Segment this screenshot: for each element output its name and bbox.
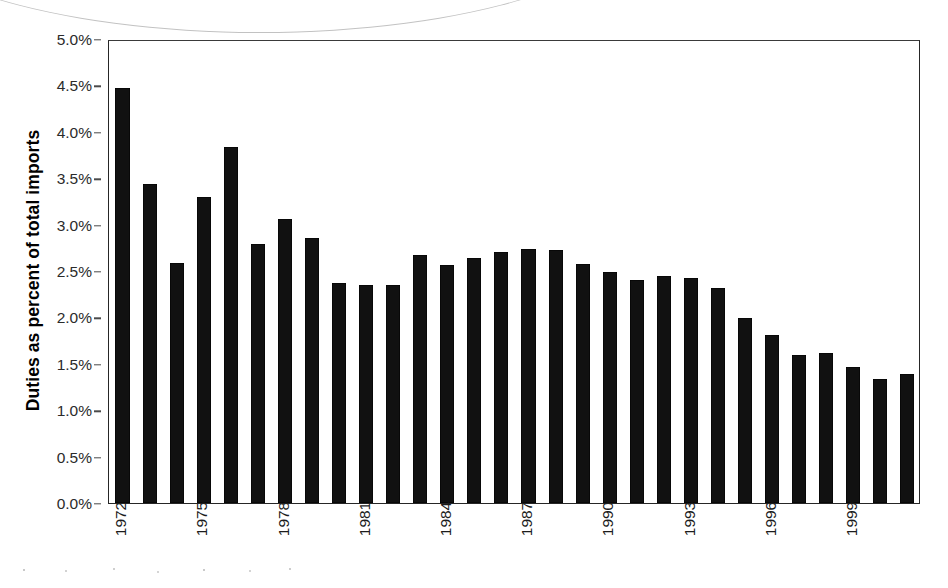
y-tick-label: 1.5% <box>57 356 92 374</box>
y-tick-label: 1.0% <box>57 402 92 420</box>
bar <box>440 265 454 503</box>
x-tick-label: 1978 <box>254 510 314 528</box>
x-tick-label: 1993 <box>660 510 720 528</box>
y-tick-label: 2.0% <box>57 309 92 327</box>
bar <box>115 88 129 503</box>
x-tick-label-text: 1990 <box>600 502 618 536</box>
y-tick-label: 4.5% <box>57 77 92 95</box>
y-tick-mark <box>94 410 101 411</box>
y-tick-mark <box>94 457 101 458</box>
y-tick-label: 0.5% <box>57 449 92 467</box>
bar <box>900 374 914 503</box>
bar <box>630 280 644 503</box>
y-tick-mark <box>94 503 101 504</box>
x-axis-tick-labels: 1972197519781981198419871990199319961999 <box>108 506 920 588</box>
bar <box>197 197 211 503</box>
x-tick-label: 1987 <box>498 510 558 528</box>
bar <box>738 318 752 503</box>
x-tick-label-text: 1993 <box>681 502 699 536</box>
y-axis-tick-labels: 0.0%0.5%1.0%1.5%2.0%2.5%3.0%3.5%4.0%4.5%… <box>0 0 108 588</box>
y-tick-label: 0.0% <box>57 495 92 513</box>
bar <box>684 278 698 504</box>
bar <box>332 283 346 503</box>
y-tick-label: 4.0% <box>57 124 92 142</box>
x-tick-label-text: 1972 <box>113 502 131 536</box>
bar <box>765 335 779 503</box>
y-tick-label: 5.0% <box>57 31 92 49</box>
y-tick-label: 3.5% <box>57 170 92 188</box>
bar <box>494 252 508 503</box>
x-tick-label-text: 1999 <box>843 502 861 536</box>
bar <box>278 219 292 503</box>
y-tick-mark <box>94 39 101 40</box>
x-tick-label-text: 1978 <box>275 502 293 536</box>
x-tick-label: 1996 <box>741 510 801 528</box>
x-tick-label: 1999 <box>822 510 882 528</box>
x-tick-label: 1972 <box>92 510 152 528</box>
x-tick-label-text: 1975 <box>194 502 212 536</box>
bar <box>603 272 617 503</box>
bar <box>819 353 833 503</box>
x-tick-label: 1975 <box>173 510 233 528</box>
bar <box>305 238 319 503</box>
bar <box>413 255 427 503</box>
bar-series <box>109 41 919 503</box>
bar <box>467 258 481 503</box>
y-tick-mark <box>94 318 101 319</box>
x-tick-label-text: 1987 <box>519 502 537 536</box>
bar <box>386 285 400 503</box>
bar <box>251 244 265 503</box>
y-tick-mark <box>94 271 101 272</box>
y-tick-mark <box>94 364 101 365</box>
x-tick-label: 1990 <box>579 510 639 528</box>
x-tick-label-text: 1996 <box>762 502 780 536</box>
bar <box>170 263 184 503</box>
chart-figure: Duties as percent of total imports 0.0%0… <box>0 0 948 588</box>
bar <box>846 367 860 503</box>
x-tick-label-text: 1984 <box>437 502 455 536</box>
y-tick-mark <box>94 132 101 133</box>
bar <box>873 379 887 503</box>
y-tick-label: 3.0% <box>57 217 92 235</box>
plot-area <box>108 40 920 504</box>
bar <box>549 250 563 503</box>
bar <box>224 147 238 503</box>
bar <box>143 184 157 503</box>
y-tick-mark <box>94 225 101 226</box>
y-tick-label: 2.5% <box>57 263 92 281</box>
bar <box>576 264 590 503</box>
x-tick-label: 1981 <box>335 510 395 528</box>
bar <box>792 355 806 503</box>
bar <box>711 288 725 503</box>
y-tick-mark <box>94 86 101 87</box>
bar <box>359 285 373 503</box>
x-tick-label: 1984 <box>416 510 476 528</box>
bar <box>657 276 671 503</box>
x-tick-label-text: 1981 <box>356 502 374 536</box>
bar <box>521 249 535 503</box>
y-tick-mark <box>94 178 101 179</box>
